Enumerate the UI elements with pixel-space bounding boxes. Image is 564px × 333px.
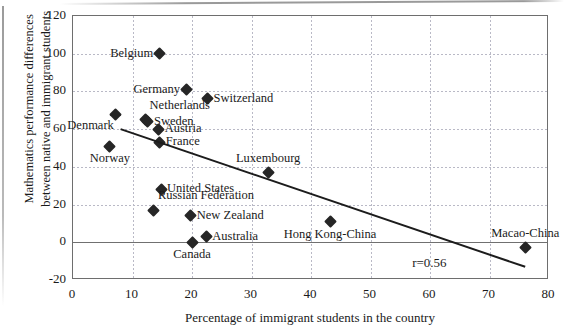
plot-area: BelgiumGermanySwitzerlandDenmarkNetherla…: [72, 15, 548, 279]
x-tick-label: 40: [304, 286, 317, 302]
y-tick-label: 40: [53, 158, 66, 174]
x-tick-label: 10: [125, 286, 138, 302]
y-tick-label: 60: [53, 120, 66, 136]
y-tick-label: 120: [47, 7, 67, 23]
scatter-chart: Mathematics performance differences betw…: [0, 0, 564, 333]
x-tick-label: 50: [363, 286, 376, 302]
x-axis-tick-labels: 01020304050607080: [72, 286, 548, 306]
y-tick-label: -20: [49, 271, 66, 287]
y-tick-label: 20: [53, 196, 66, 212]
x-tick-label: 0: [69, 286, 76, 302]
y-tick-label: 80: [53, 82, 66, 98]
y-axis-tick-labels: -20020406080100120: [18, 15, 66, 279]
trend-line: [73, 16, 549, 280]
y-tick-label: 0: [60, 233, 67, 249]
x-tick-label: 30: [244, 286, 257, 302]
x-tick-label: 80: [542, 286, 555, 302]
correlation-annotation: r=0.56: [412, 255, 446, 271]
y-tick-label: 100: [47, 45, 67, 61]
x-tick-label: 60: [423, 286, 436, 302]
x-tick-label: 70: [482, 286, 495, 302]
x-axis-title: Percentage of immigrant students in the …: [72, 310, 548, 326]
x-tick-label: 20: [185, 286, 198, 302]
